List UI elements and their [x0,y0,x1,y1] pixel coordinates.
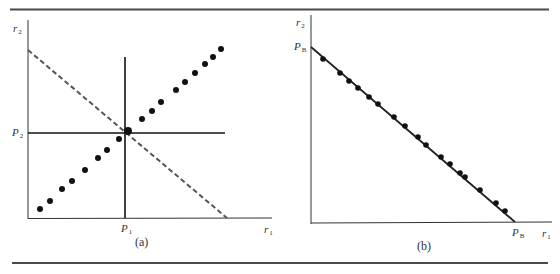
data-point [95,155,101,161]
data-point [457,170,463,176]
data-point [202,61,208,67]
label-base: r [542,227,546,239]
label-base: r [264,223,268,235]
data-point [438,154,444,160]
data-point [37,206,43,212]
data-point [402,123,408,129]
data-point [462,174,468,180]
data-point [116,136,122,142]
panel-b-x-axis [311,222,552,223]
label-base: P [121,222,128,234]
panel-a-points [37,46,224,212]
data-point [82,167,88,173]
label-sub: 2 [20,132,24,140]
data-point [218,46,224,52]
panel-b-axes [311,15,552,224]
panel-b-x-tick-label: PB [512,227,524,240]
label-sub: 2 [18,28,22,36]
panel-b-y-tick-label: PB [294,41,306,54]
panel-a-x-tick-label: P1 [121,223,132,236]
label-base: P [294,40,301,52]
data-point [477,187,483,193]
data-point [59,186,65,192]
data-point [182,79,188,85]
data-point [447,161,453,167]
label-base: P [12,126,19,138]
label-sub: 1 [129,228,133,236]
label-base: r [13,22,17,34]
label-sub: 1 [547,233,551,241]
label-sub: 1 [269,229,273,237]
data-point [104,147,110,153]
data-point [192,70,198,76]
panel-a-caption: (a) [135,236,148,248]
data-point [366,94,372,100]
equilibrium-point [124,127,132,135]
data-point [415,134,421,140]
data-point [346,78,352,84]
label-sub: B [302,46,307,54]
data-point [139,116,145,122]
data-point [47,198,53,204]
data-point [355,85,361,91]
data-point [69,178,75,184]
label-sub: 2 [301,22,305,30]
panel-a-x-axis [28,218,272,219]
panel-b-y-axis-label: r2 [296,17,305,30]
panel-a-y-tick-label: P2 [12,127,23,140]
data-point [210,54,216,60]
panel-a-y-axis-label: r2 [13,23,22,36]
data-point [149,108,155,114]
data-point [173,87,179,93]
data-point [320,56,326,62]
panel-b-caption: (b) [417,240,431,252]
figure: r2 P2 P1 r1 (a) r2 PB PB r1 (b) [0,0,560,274]
data-point [337,70,343,76]
data-point [391,114,397,120]
data-point [502,208,508,214]
panel-b-x-axis-label: r1 [542,228,551,241]
panel-a-x-axis-label: r1 [264,224,273,237]
label-sub: B [520,232,525,240]
label-base: r [296,16,300,28]
data-point [493,200,499,206]
data-point [375,101,381,107]
data-point [158,99,164,105]
figure-graphics [0,0,560,274]
label-base: P [512,226,519,238]
data-point [423,142,429,148]
